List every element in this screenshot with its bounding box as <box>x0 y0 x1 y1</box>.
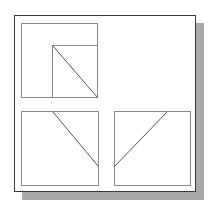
view-edge-line <box>53 112 99 167</box>
view-edge-line <box>53 46 98 98</box>
view-outline <box>115 112 191 186</box>
view-outline <box>22 112 99 186</box>
view-outline <box>22 24 98 98</box>
bottom-left-view <box>22 112 99 186</box>
top-left-view <box>22 24 98 98</box>
projection-views <box>0 0 214 212</box>
view-edge-line <box>115 112 168 167</box>
bottom-right-view <box>115 112 191 186</box>
